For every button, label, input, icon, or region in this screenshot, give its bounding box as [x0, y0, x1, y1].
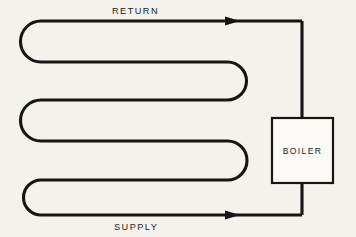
- supply-flow-arrow-icon: [225, 211, 240, 220]
- boiler-label: BOILER: [283, 146, 323, 156]
- diagram-canvas: RETURN SUPPLY BOILER: [0, 0, 356, 237]
- radiant-loop-diagram: RETURN SUPPLY BOILER: [0, 0, 356, 237]
- return-label: RETURN: [112, 6, 159, 16]
- supply-label: SUPPLY: [114, 222, 158, 232]
- serpentine-pipe-loop: [20, 21, 302, 215]
- return-flow-arrow-icon: [225, 17, 240, 26]
